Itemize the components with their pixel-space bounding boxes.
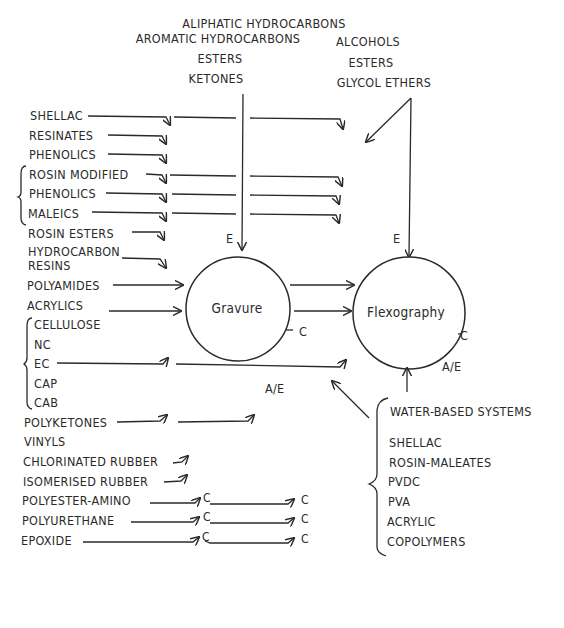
resin-cab: CAB (34, 395, 58, 410)
c-mark-polyester-gravure: C (203, 491, 211, 505)
c-mark-epoxide-gravure: C (202, 530, 210, 544)
water-based-arrow-diag (332, 381, 369, 418)
resin-cellulose: CELLULOSE (34, 317, 101, 332)
gravure-solvents: ALIPHATIC HYDROCARBONS AROMATIC HYDROCAR… (136, 16, 346, 86)
resin-rosin-phenolics: PHENOLICS (29, 186, 96, 201)
resin-chlorinated-rubber: CHLORINATED RUBBER (23, 454, 158, 469)
resin-polyketones: POLYKETONES (24, 415, 107, 430)
resin-maleics: MALEICS (28, 206, 79, 221)
rosin-modified-bracket (18, 166, 26, 225)
flexography-label: Flexography (367, 304, 445, 320)
gravure-label: Gravure (212, 300, 263, 316)
c-mark-polyurethane-flexo: C (301, 512, 309, 526)
ae-label-flexo: A/E (442, 359, 462, 374)
water-based-bracket (369, 398, 388, 556)
c-label-flexo: C (460, 328, 468, 343)
c-mark-polyester-flexo: C (301, 493, 309, 507)
water-item-copolymers: COPOLYMERS (387, 534, 466, 549)
solvent-alcohols: ALCOHOLS (336, 34, 400, 49)
resin-resinates: RESINATES (29, 128, 93, 143)
c-mark-epoxide-flexo: C (301, 532, 309, 546)
resin-phenolics: PHENOLICS (29, 147, 96, 162)
c-label-gravure: C (299, 324, 307, 339)
water-item-shellac: SHELLAC (389, 435, 442, 450)
solvent-aromatic: AROMATIC HYDROCARBONS (136, 31, 301, 46)
solvent-glycol-ethers: GLYCOL ETHERS (337, 75, 431, 90)
flexo-solvents: ALCOHOLS ESTERS GLYCOL ETHERS (336, 34, 431, 90)
solvent-ketones: KETONES (189, 71, 244, 86)
water-item-pvdc: PVDC (388, 474, 420, 489)
cellulose-bracket (24, 318, 32, 409)
resin-polyester-amino: POLYESTER-AMINO (22, 493, 131, 508)
resin-epoxide: EPOXIDE (21, 533, 72, 548)
gravure-solvent-arrow (242, 94, 243, 250)
resin-cap: CAP (34, 376, 57, 391)
resin-vinyls: VINYLS (24, 434, 66, 449)
water-item-rosin-maleates: ROSIN-MALEATES (389, 455, 491, 470)
flexo-solvent-branch-arrow (366, 98, 411, 142)
resin-list: SHELLAC RESINATES PHENOLICS ROSIN MODIFI… (21, 108, 158, 548)
resin-nc: NC (34, 337, 51, 352)
resin-rosin-esters: ROSIN ESTERS (28, 226, 114, 241)
resin-shellac: SHELLAC (30, 108, 83, 123)
c-mark-polyurethane-gravure: C (203, 510, 211, 524)
solvent-esters-flexo: ESTERS (349, 55, 394, 70)
resin-hydrocarbon-resins: RESINS (28, 258, 71, 273)
water-based-title: WATER-BASED SYSTEMS (390, 404, 532, 419)
e-label-flexo: E (393, 231, 400, 246)
water-item-acrylic: ACRYLIC (387, 514, 436, 529)
solvent-esters: ESTERS (198, 51, 243, 66)
flexo-solvent-arrow (409, 98, 411, 257)
ink-resin-solvent-diagram: ALIPHATIC HYDROCARBONS AROMATIC HYDROCAR… (0, 0, 564, 628)
resin-polyamides: POLYAMIDES (27, 278, 100, 293)
resin-ec: EC (34, 356, 50, 371)
resin-acrylics: ACRYLICS (27, 298, 83, 313)
e-label-gravure: E (226, 231, 233, 246)
resin-hydrocarbon: HYDROCARBON (28, 244, 120, 259)
resin-isomerised-rubber: ISOMERISED RUBBER (23, 474, 148, 489)
resin-polyurethane: POLYURETHANE (22, 513, 114, 528)
resin-rosin-modified: ROSIN MODIFIED (29, 167, 128, 182)
solvent-aliphatic: ALIPHATIC HYDROCARBONS (182, 16, 345, 31)
water-item-pva: PVA (388, 494, 410, 509)
ae-label-gravure: A/E (265, 381, 285, 396)
